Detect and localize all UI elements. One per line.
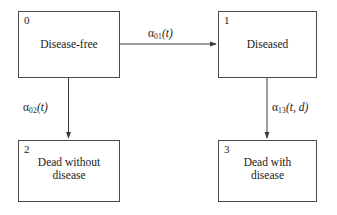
alpha-subscript-02: 02 bbox=[29, 106, 37, 115]
alpha-args-13: (t, d) bbox=[286, 101, 308, 113]
alpha-args-02: (t) bbox=[37, 101, 48, 113]
state-box-dead-with-disease: 3 Dead with disease bbox=[218, 140, 317, 202]
state-id-2: 2 bbox=[24, 143, 30, 155]
state-box-diseased: 1 Diseased bbox=[218, 11, 317, 78]
state-label-dead-with-disease: Dead with disease bbox=[219, 156, 316, 182]
alpha-subscript-13: 13 bbox=[278, 106, 286, 115]
state-id-3: 3 bbox=[224, 143, 230, 155]
state-id-0: 0 bbox=[24, 14, 30, 26]
transition-label-alpha-02: α02(t) bbox=[23, 100, 48, 116]
state-transition-diagram: 0 Disease-free 1 Diseased 2 Dead without… bbox=[0, 0, 337, 215]
alpha-args-01: (t) bbox=[162, 27, 173, 39]
state-id-1: 1 bbox=[224, 14, 230, 26]
state-label-diseased: Diseased bbox=[219, 38, 316, 51]
state-label-disease-free: Disease-free bbox=[19, 38, 119, 51]
transition-label-alpha-13: α13(t, d) bbox=[272, 100, 308, 116]
transition-label-alpha-01: α01(t) bbox=[148, 26, 173, 42]
state-box-disease-free: 0 Disease-free bbox=[18, 11, 120, 78]
state-label-dead-without-disease: Dead without disease bbox=[19, 156, 119, 182]
state-box-dead-without-disease: 2 Dead without disease bbox=[18, 140, 120, 202]
alpha-subscript-01: 01 bbox=[154, 32, 162, 41]
